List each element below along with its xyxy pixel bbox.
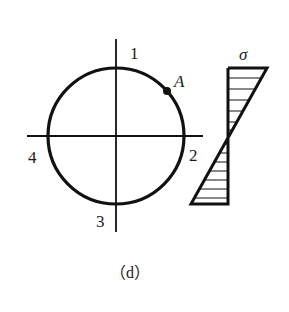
stress-figure-d: 1 2 3 4 A [0, 0, 289, 312]
label-point-3: 3 [96, 212, 105, 231]
label-point-a: A [173, 72, 185, 91]
sigma-label: σ [239, 45, 248, 64]
point-a-marker [163, 87, 171, 95]
label-point-1: 1 [130, 44, 139, 63]
figure-caption: （d） [110, 264, 150, 281]
label-point-4: 4 [28, 148, 37, 167]
label-point-2: 2 [189, 146, 198, 165]
